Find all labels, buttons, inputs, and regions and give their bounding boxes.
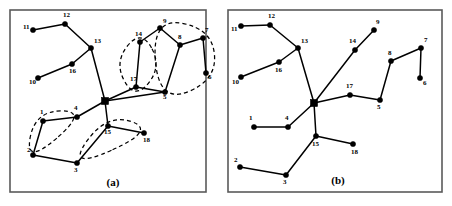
panel-frame-b (228, 10, 442, 192)
graph-node-label-3: 3 (74, 166, 78, 174)
figure-container: 111213161014987617514231518(a)1112131610… (0, 0, 452, 206)
graph-node-label-15: 15 (312, 140, 320, 148)
graph-node-label-10: 10 (29, 78, 37, 86)
graph-node-5[interactable] (377, 97, 382, 102)
graph-node-9[interactable] (371, 27, 376, 32)
graph-node-12[interactable] (267, 22, 272, 27)
graph-node-label-18: 18 (143, 136, 151, 144)
graph-node-label-11: 11 (23, 23, 30, 31)
graph-node-10[interactable] (35, 75, 40, 80)
graph-hub-node[interactable] (102, 98, 109, 105)
graph-node-label-12: 12 (63, 11, 71, 19)
graph-node-15[interactable] (313, 133, 318, 138)
graph-node-label-6: 6 (423, 79, 427, 87)
graph-node-label-7: 7 (424, 36, 428, 44)
graph-node-label-8: 8 (388, 49, 392, 57)
graph-node-label-3: 3 (283, 178, 287, 186)
graph-node-18[interactable] (350, 141, 355, 146)
graph-node-label-18: 18 (351, 148, 359, 156)
graph-node-label-16: 16 (275, 66, 283, 74)
graph-node-label-6: 6 (208, 73, 212, 81)
graph-node-label-2: 2 (234, 156, 238, 164)
graph-node-label-2: 2 (27, 146, 31, 154)
graph-node-4[interactable] (285, 124, 290, 129)
graph-node-label-9: 9 (376, 18, 380, 26)
graph-node-label-9: 9 (163, 17, 167, 25)
panel-a: 111213161014987617514231518(a) (10, 10, 215, 192)
graph-node-label-14: 14 (135, 30, 143, 38)
graph-node-1[interactable] (40, 118, 45, 123)
panel-caption-a: (a) (107, 176, 120, 189)
graph-node-label-13: 13 (301, 37, 309, 45)
graph-node-7[interactable] (200, 35, 205, 40)
graph-node-8[interactable] (177, 42, 182, 47)
graph-edge (241, 25, 270, 26)
graph-node-1[interactable] (251, 124, 256, 129)
graph-node-10[interactable] (238, 74, 243, 79)
graph-node-label-17: 17 (130, 75, 138, 83)
graph-node-label-5: 5 (163, 93, 167, 101)
graph-node-18[interactable] (141, 130, 146, 135)
graph-node-13[interactable] (295, 45, 300, 50)
graph-node-7[interactable] (418, 45, 423, 50)
graph-edge (420, 48, 421, 78)
graph-node-label-15: 15 (104, 128, 112, 136)
graph-node-label-10: 10 (232, 78, 240, 86)
graph-figure: 111213161014987617514231518(a)1112131610… (0, 0, 452, 206)
graph-node-label-17: 17 (346, 82, 354, 90)
graph-node-14[interactable] (352, 47, 357, 52)
panel-b: 111213161014987617514231518(b) (228, 10, 442, 192)
graph-node-label-7: 7 (205, 26, 209, 34)
graph-node-label-16: 16 (69, 67, 77, 75)
graph-node-12[interactable] (62, 21, 67, 26)
graph-node-label-4: 4 (285, 114, 289, 122)
graph-node-13[interactable] (88, 45, 93, 50)
panel-caption-b: (b) (331, 174, 345, 187)
graph-node-14[interactable] (137, 39, 142, 44)
graph-node-label-14: 14 (349, 37, 357, 45)
graph-node-3[interactable] (283, 172, 288, 177)
graph-node-11[interactable] (238, 23, 243, 28)
graph-node-17[interactable] (133, 84, 138, 89)
graph-node-label-12: 12 (268, 12, 276, 20)
graph-node-17[interactable] (347, 92, 352, 97)
graph-node-16[interactable] (276, 59, 281, 64)
graph-node-6[interactable] (417, 75, 422, 80)
graph-node-3[interactable] (74, 160, 79, 165)
graph-node-11[interactable] (30, 27, 35, 32)
graph-node-8[interactable] (388, 58, 393, 63)
graph-node-label-1: 1 (40, 108, 44, 116)
graph-node-2[interactable] (30, 152, 35, 157)
graph-node-16[interactable] (69, 61, 74, 66)
graph-node-label-8: 8 (178, 33, 182, 41)
graph-node-label-1: 1 (249, 114, 253, 122)
graph-node-label-11: 11 (231, 25, 238, 33)
graph-node-label-5: 5 (377, 103, 381, 111)
graph-node-label-13: 13 (94, 37, 102, 45)
graph-node-9[interactable] (157, 25, 162, 30)
graph-node-4[interactable] (74, 114, 79, 119)
graph-hub-node[interactable] (311, 100, 318, 107)
graph-node-2[interactable] (237, 164, 242, 169)
graph-node-label-4: 4 (74, 104, 78, 112)
